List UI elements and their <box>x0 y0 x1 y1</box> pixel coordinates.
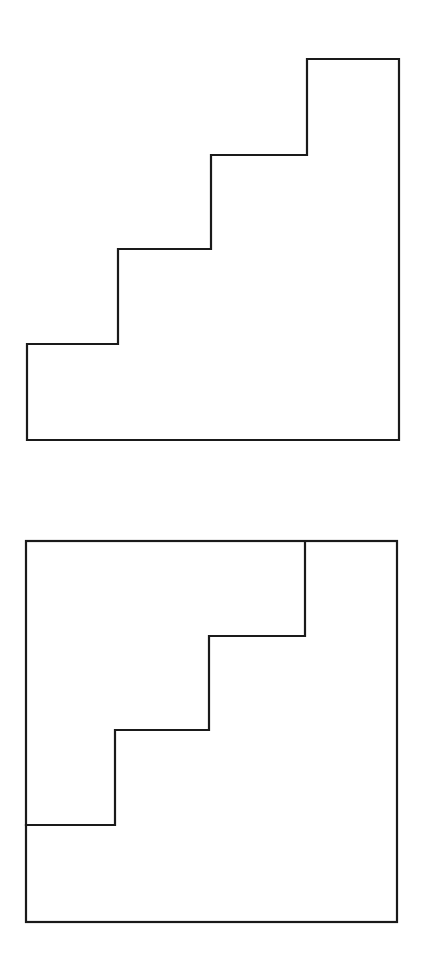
staircase-outline <box>27 59 399 440</box>
staircase-figure <box>27 59 399 440</box>
staircase-divider-line <box>26 542 305 825</box>
diagram-canvas <box>0 0 421 976</box>
square-divided-figure <box>26 541 397 922</box>
square-outline <box>26 541 397 922</box>
